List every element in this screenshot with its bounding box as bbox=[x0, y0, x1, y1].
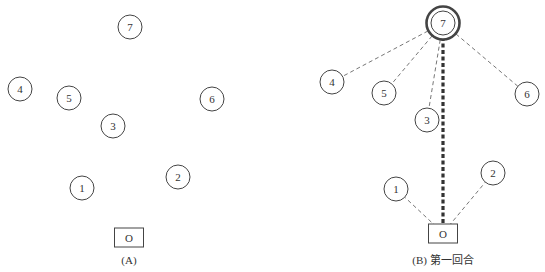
diagram-canvas: 7456312O7456312O (A)(B) 第一回合 bbox=[0, 0, 545, 272]
node-label: 7 bbox=[440, 17, 446, 29]
node-label: 2 bbox=[175, 171, 181, 183]
node-B-6: 6 bbox=[515, 82, 539, 106]
node-label: 4 bbox=[329, 76, 335, 88]
caption-B: (B) 第一回合 bbox=[412, 253, 473, 267]
node-B-1: 1 bbox=[384, 177, 408, 201]
node-label: 3 bbox=[110, 120, 116, 132]
nodes-layer: 7456312O7456312O bbox=[8, 7, 539, 248]
node-B-3: 3 bbox=[415, 108, 439, 132]
captions-layer: (A)(B) 第一回合 bbox=[121, 253, 473, 267]
node-A-3: 3 bbox=[101, 114, 125, 138]
node-A-6: 6 bbox=[200, 87, 224, 111]
dashed-edge-7-3 bbox=[429, 40, 440, 108]
dashed-edge-7-4 bbox=[343, 31, 428, 76]
origin-box-A: O bbox=[115, 228, 144, 247]
node-B-2: 2 bbox=[481, 161, 505, 185]
node-label: 6 bbox=[524, 88, 530, 100]
node-label: 5 bbox=[66, 92, 72, 104]
node-label: 4 bbox=[17, 83, 23, 95]
node-B-7: 7 bbox=[427, 7, 460, 40]
node-B-4: 4 bbox=[320, 70, 344, 94]
dashed-edge-O-2 bbox=[449, 182, 486, 226]
node-label: 1 bbox=[79, 182, 85, 194]
node-B-5: 5 bbox=[372, 81, 396, 105]
dashed-edge-7-6 bbox=[456, 34, 518, 86]
caption-A: (A) bbox=[121, 254, 137, 267]
node-label: 3 bbox=[424, 114, 430, 126]
origin-box-B: O bbox=[429, 224, 458, 243]
node-label: 6 bbox=[209, 93, 215, 105]
node-A-7: 7 bbox=[118, 15, 142, 39]
node-label: 7 bbox=[127, 21, 133, 33]
dashed-edge-O-1 bbox=[405, 197, 437, 227]
node-A-4: 4 bbox=[8, 77, 32, 101]
node-A-1: 1 bbox=[70, 176, 94, 200]
node-A-2: 2 bbox=[166, 165, 190, 189]
node-A-5: 5 bbox=[57, 86, 81, 110]
dashed-edge-7-5 bbox=[392, 36, 432, 84]
node-label: 5 bbox=[381, 87, 387, 99]
node-label: 1 bbox=[393, 183, 399, 195]
origin-label: O bbox=[125, 232, 133, 244]
origin-label: O bbox=[439, 228, 447, 240]
node-label: 2 bbox=[490, 167, 496, 179]
